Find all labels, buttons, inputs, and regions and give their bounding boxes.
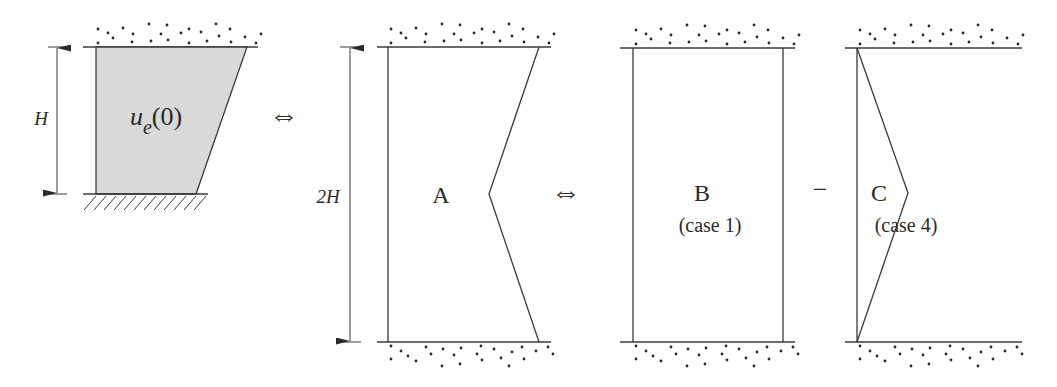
soil-dots-top [635, 24, 801, 46]
panel-original: H ue(0) [33, 23, 262, 210]
soil-dots-bottom [859, 345, 1024, 368]
soil-dots-bottom [635, 345, 800, 368]
dimension-label-H: H [33, 108, 49, 129]
ue-subscript: e [143, 116, 152, 138]
minus-operator: − [813, 175, 828, 204]
equivalence-arrow-2: ⇔ [551, 175, 581, 208]
soil-dots-top [390, 23, 556, 45]
label-B: B [694, 180, 710, 206]
equivalence-arrow-1: ⇔ [269, 98, 299, 131]
ue-symbol: u [130, 102, 143, 131]
dimension-H [48, 47, 67, 194]
hatch-fixed-support [84, 196, 206, 210]
soil-dots-top [859, 24, 1025, 46]
label-C: C [871, 180, 887, 206]
panel-A: 2H A [316, 23, 555, 368]
caption-case-1: (case 1) [679, 214, 742, 237]
label-A: A [432, 182, 450, 208]
caption-case-4: (case 4) [875, 214, 938, 237]
dimension-2H [340, 47, 361, 342]
diagram-canvas: H ue(0) ⇔ 2H A ⇔ B (case 1) − [0, 0, 1057, 387]
ue-argument: (0) [152, 102, 182, 131]
panel-B: B (case 1) [620, 24, 800, 368]
panel-C: C (case 4) [845, 24, 1024, 368]
soil-dots-bottom [390, 345, 555, 368]
dimension-label-2H: 2H [316, 186, 341, 207]
soil-dots-top [97, 23, 263, 45]
displacement-profile [489, 47, 539, 342]
